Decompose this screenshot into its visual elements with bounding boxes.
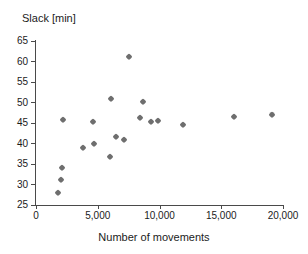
y-axis-tick-label: 60: [2, 57, 28, 67]
x-axis-tick: [160, 205, 161, 209]
x-axis-tick-label: 5,000: [85, 211, 110, 221]
x-axis-tick: [36, 205, 37, 209]
x-axis-tick-label: 15,000: [206, 211, 237, 221]
x-axis-tick-label: 20,000: [268, 211, 299, 221]
y-axis-tick-label: 65: [2, 36, 28, 46]
y-axis-tick-label: 55: [2, 77, 28, 87]
y-axis-tick-label: 50: [2, 98, 28, 108]
y-axis-title: Slack [min]: [22, 12, 76, 25]
x-axis-tick-label: 0: [33, 211, 39, 221]
x-axis-tick: [221, 205, 222, 209]
y-axis-tick-label: 35: [2, 159, 28, 169]
y-axis-tick-label: 25: [2, 200, 28, 210]
x-axis-tick: [283, 205, 284, 209]
x-axis-title: Number of movements: [0, 231, 308, 244]
scatter-chart-figure: Slack [min] 253035404550556065 05,00010,…: [0, 0, 308, 254]
x-axis-tick: [98, 205, 99, 209]
x-axis-tick-label: 10,000: [144, 211, 175, 221]
plot-area: [36, 41, 283, 205]
y-axis-tick-label: 30: [2, 180, 28, 190]
y-axis-tick-label: 40: [2, 139, 28, 149]
y-axis-tick-label: 45: [2, 118, 28, 128]
